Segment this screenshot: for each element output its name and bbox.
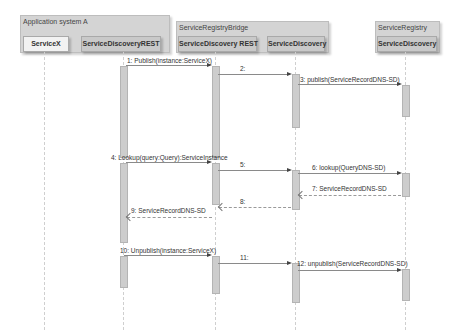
message-label-9: 9: ServiceRecordDNS-SD [131,207,206,214]
activation-bar [212,256,220,294]
arrowhead-icon [397,171,402,175]
participant-servicediscovery-registry[interactable]: ServiceDiscovery [377,36,437,52]
arrowhead-icon [287,168,292,172]
activation-bar [120,163,128,243]
arrowhead-icon [207,253,212,257]
message-arrow-11[interactable] [218,263,290,264]
activation-bar [402,269,410,301]
message-label-6: 6: lookup(QueryDNS-SD) [312,164,385,171]
group-label: ServiceRegistryBridge [179,24,248,31]
group-label: ServiceRegistry [378,24,427,31]
message-label-11: 11: [240,254,249,261]
arrowhead-icon [287,72,292,76]
message-arrow-1[interactable] [126,65,210,66]
message-arrow-10[interactable] [124,255,210,256]
message-arrow-6[interactable] [298,173,400,174]
activation-bar [292,74,300,128]
message-arrow-7[interactable] [299,195,401,196]
message-label-2: 2: [240,65,245,72]
arrowhead-icon [218,203,226,211]
activation-bar [120,66,128,158]
activation-bar [402,85,410,117]
message-arrow-5[interactable] [218,170,290,171]
arrowhead-icon [397,82,402,86]
message-label-3: 3: publish(ServiceRecordDNS-SD) [300,76,400,83]
lifeline-servicex [44,52,45,330]
participant-servicediscovery-rest-bridge[interactable]: ServiceDiscovery REST [178,36,257,52]
participant-servicex[interactable]: ServiceX [23,36,69,52]
message-arrow-3[interactable] [298,84,400,85]
arrowhead-icon [287,261,292,265]
message-arrow-4[interactable] [126,162,210,163]
message-label-12: 12: unpublish(ServiceRecordDNS-SD) [297,260,408,267]
arrowhead-icon [397,268,402,272]
participant-servicediscoveryrest-a[interactable]: ServiceDiscoveryREST [81,36,161,52]
message-label-8: 8: [240,198,245,205]
arrowhead-icon [207,63,212,67]
activation-bar [402,173,410,197]
arrowhead-icon [207,160,212,164]
activation-bar [292,263,300,303]
message-label-1: 1: Publish(instance:ServiceX) [127,57,212,64]
activation-bar [212,66,220,158]
message-arrow-12[interactable] [298,270,400,271]
activation-bar [292,170,300,210]
message-arrow-8[interactable] [219,207,291,208]
participant-servicediscovery-bridge[interactable]: ServiceDiscovery [267,36,325,52]
message-label-10: 10: Unpublish(instance:ServiceX) [120,247,216,254]
message-label-5: 5: [240,161,245,168]
message-label-7: 7: ServiceRecordDNS-SD [312,185,387,192]
message-arrow-9[interactable] [127,217,212,218]
message-arrow-2[interactable] [218,74,290,75]
activation-bar [120,256,128,288]
group-label: Application system A [23,18,88,25]
